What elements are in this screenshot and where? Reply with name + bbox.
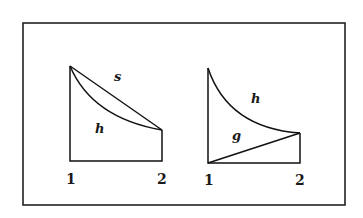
right-diagram: h g 1 2 (204, 68, 305, 188)
right-diagram-straight-line (208, 133, 300, 163)
left-diagram-x-label-2: 2 (157, 171, 167, 187)
left-diagram: s h 1 2 (66, 66, 167, 187)
left-diagram-x-label-1: 1 (66, 171, 76, 187)
left-diagram-label-s: s (114, 69, 122, 84)
left-diagram-label-h: h (95, 121, 104, 136)
figure-canvas: s h 1 2 h g 1 2 (0, 0, 363, 218)
right-diagram-x-label-1: 1 (204, 172, 214, 188)
right-diagram-label-g: g (232, 128, 241, 143)
right-diagram-x-label-2: 2 (295, 172, 305, 188)
right-diagram-label-h: h (251, 91, 260, 106)
